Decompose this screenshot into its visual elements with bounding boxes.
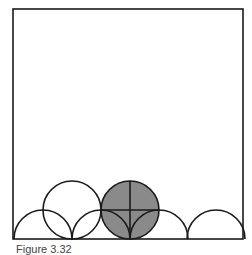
semicircle-4 xyxy=(187,210,245,239)
figure-caption: Figure 3.32 xyxy=(16,243,72,255)
outline-circle xyxy=(43,181,101,239)
